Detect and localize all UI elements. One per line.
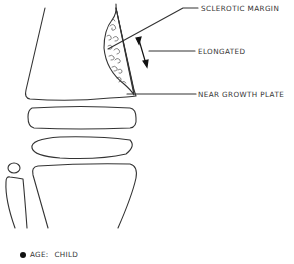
legend-key: AGE: <box>30 250 49 259</box>
legend-value: CHILD <box>55 250 79 259</box>
tibial-epiphysis <box>32 137 132 159</box>
age-legend: AGE: CHILD <box>20 250 78 259</box>
fibula-shaft <box>6 177 27 228</box>
knee-diagram <box>0 0 294 264</box>
bullet-icon <box>20 252 26 258</box>
tibia-outline <box>33 164 137 228</box>
fibula-head <box>8 163 20 173</box>
label-sclerotic-margin: SCLEROTIC MARGIN <box>201 4 279 13</box>
label-near-growth-plate: NEAR GROWTH PLATE <box>198 90 284 99</box>
epiphysis <box>28 107 136 130</box>
double-arrow-icon <box>136 37 148 67</box>
label-elongated: ELONGATED <box>198 47 245 56</box>
